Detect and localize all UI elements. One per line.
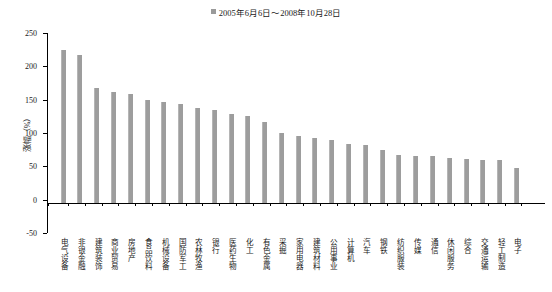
bar bbox=[413, 156, 418, 203]
x-tick bbox=[488, 203, 489, 206]
x-tick bbox=[505, 203, 506, 206]
bar bbox=[161, 102, 166, 203]
x-tick bbox=[337, 203, 338, 206]
plot-area: 涨幅（%） 250200150100500-50 bbox=[47, 33, 545, 233]
bar-slot bbox=[359, 36, 371, 203]
x-axis-label: 电气设备 bbox=[59, 238, 68, 270]
y-tick: 0 bbox=[43, 200, 47, 201]
bar bbox=[212, 110, 217, 203]
legend-swatch-icon bbox=[211, 9, 216, 14]
x-axis-label: 房地产 bbox=[126, 238, 135, 262]
y-tick-label: 200 bbox=[25, 62, 37, 71]
x-axis-label: 建筑材料 bbox=[310, 238, 319, 270]
x-tick bbox=[354, 203, 355, 206]
bar-slot bbox=[141, 36, 153, 203]
x-axis-label: 电子 bbox=[512, 238, 521, 254]
bar bbox=[447, 158, 452, 203]
x-axis-label: 钢铁 bbox=[378, 238, 387, 254]
bar-slot bbox=[191, 36, 203, 203]
bar bbox=[262, 122, 267, 203]
bar-group bbox=[48, 33, 545, 203]
y-tick: 250 bbox=[43, 33, 47, 34]
bar-slot bbox=[259, 36, 271, 203]
bar bbox=[396, 155, 401, 203]
x-axis-label: 银行 bbox=[210, 238, 219, 254]
x-tick bbox=[85, 203, 86, 206]
x-axis-label: 商业贸易 bbox=[109, 238, 118, 270]
x-axis-label: 化工 bbox=[243, 238, 252, 254]
legend-label: 2005年6月6日～2008年10月28日 bbox=[219, 6, 342, 18]
x-axis-label: 休闲服务 bbox=[445, 238, 454, 270]
x-axis-label: 交通运输 bbox=[478, 238, 487, 270]
x-tick bbox=[118, 203, 119, 206]
bar-slot bbox=[57, 36, 69, 203]
bar-slot bbox=[477, 36, 489, 203]
x-tick bbox=[438, 203, 439, 206]
bar-slot bbox=[74, 36, 86, 203]
x-tick bbox=[152, 203, 153, 206]
bar-slot bbox=[427, 36, 439, 203]
bar bbox=[178, 104, 183, 203]
bar-slot bbox=[343, 36, 355, 203]
x-tick bbox=[102, 203, 103, 206]
x-tick bbox=[219, 203, 220, 206]
x-axis-label: 农林牧渔 bbox=[193, 238, 202, 270]
x-tick bbox=[521, 203, 522, 206]
x-tick bbox=[135, 203, 136, 206]
x-axis-label: 医药生物 bbox=[227, 238, 236, 270]
bar bbox=[145, 100, 150, 203]
bar-slot bbox=[376, 36, 388, 203]
bar bbox=[380, 150, 385, 203]
x-axis-label: 国防军工 bbox=[176, 238, 185, 270]
y-tick: 100 bbox=[43, 133, 47, 134]
bar-slot bbox=[292, 36, 304, 203]
y-tick: 200 bbox=[43, 66, 47, 67]
y-tick: 150 bbox=[43, 100, 47, 101]
y-tick-label: 0 bbox=[33, 195, 37, 204]
x-tick bbox=[471, 203, 472, 206]
x-tick bbox=[169, 203, 170, 206]
bar bbox=[296, 136, 301, 203]
bar-slot bbox=[208, 36, 220, 203]
bar-slot bbox=[107, 36, 119, 203]
bar bbox=[464, 159, 469, 203]
bar bbox=[245, 116, 250, 203]
bar bbox=[497, 160, 502, 203]
x-axis-label: 汽车 bbox=[361, 238, 370, 254]
x-tick bbox=[270, 203, 271, 206]
bar bbox=[111, 92, 116, 203]
bar bbox=[312, 138, 317, 203]
chart-legend: 2005年6月6日～2008年10月28日 bbox=[0, 6, 552, 18]
x-axis-label: 机械设备 bbox=[159, 238, 168, 270]
x-axis-label: 综合 bbox=[462, 238, 471, 254]
x-tick bbox=[404, 203, 405, 206]
y-tick-label: -50 bbox=[26, 229, 37, 238]
bar-slot bbox=[494, 36, 506, 203]
bar-slot bbox=[393, 36, 405, 203]
bar-slot bbox=[275, 36, 287, 203]
x-tick bbox=[186, 203, 187, 206]
bar-slot bbox=[460, 36, 472, 203]
bar bbox=[229, 114, 234, 203]
bar-slot bbox=[91, 36, 103, 203]
y-tick: -50 bbox=[43, 233, 47, 234]
y-tick-label: 100 bbox=[25, 129, 37, 138]
bar-slot bbox=[175, 36, 187, 203]
x-axis-label: 采掘 bbox=[277, 238, 286, 254]
x-tick bbox=[370, 203, 371, 206]
bar bbox=[514, 168, 519, 203]
bar-slot bbox=[158, 36, 170, 203]
x-axis-label: 家用电器 bbox=[294, 238, 303, 270]
bar bbox=[279, 133, 284, 203]
bar bbox=[480, 160, 485, 203]
bar bbox=[94, 88, 99, 203]
x-tick bbox=[236, 203, 237, 206]
bar-slot bbox=[510, 36, 522, 203]
x-axis-label: 食品饮料 bbox=[143, 238, 152, 270]
x-tick bbox=[421, 203, 422, 206]
bar-slot bbox=[326, 36, 338, 203]
x-tick bbox=[286, 203, 287, 206]
bar-slot bbox=[225, 36, 237, 203]
x-tick bbox=[303, 203, 304, 206]
y-tick-label: 250 bbox=[25, 29, 37, 38]
